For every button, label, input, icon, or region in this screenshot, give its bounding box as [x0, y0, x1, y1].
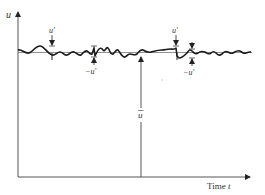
- u-prime-label-1: u′: [49, 26, 55, 35]
- fluctuation-marker-positive-2: u′: [172, 26, 179, 60]
- y-axis-label: u: [6, 9, 11, 20]
- neg-u-prime-label-1: −u′: [85, 67, 96, 76]
- neg-u-prime-label-2: −u′: [183, 68, 194, 77]
- velocity-signal: [18, 46, 251, 58]
- mean-label: u: [138, 110, 143, 120]
- fluctuation-marker-negative-2: −u′: [183, 42, 195, 77]
- image-speck: [161, 79, 163, 81]
- x-axis-label: Time t: [207, 181, 231, 191]
- diagram-canvas: u Time t u u′ −u′ u′ −u′: [0, 0, 265, 195]
- u-prime-label-2: u′: [172, 26, 178, 35]
- x-axis-label-text: Time: [207, 181, 228, 191]
- x-axis-variable: t: [228, 181, 231, 191]
